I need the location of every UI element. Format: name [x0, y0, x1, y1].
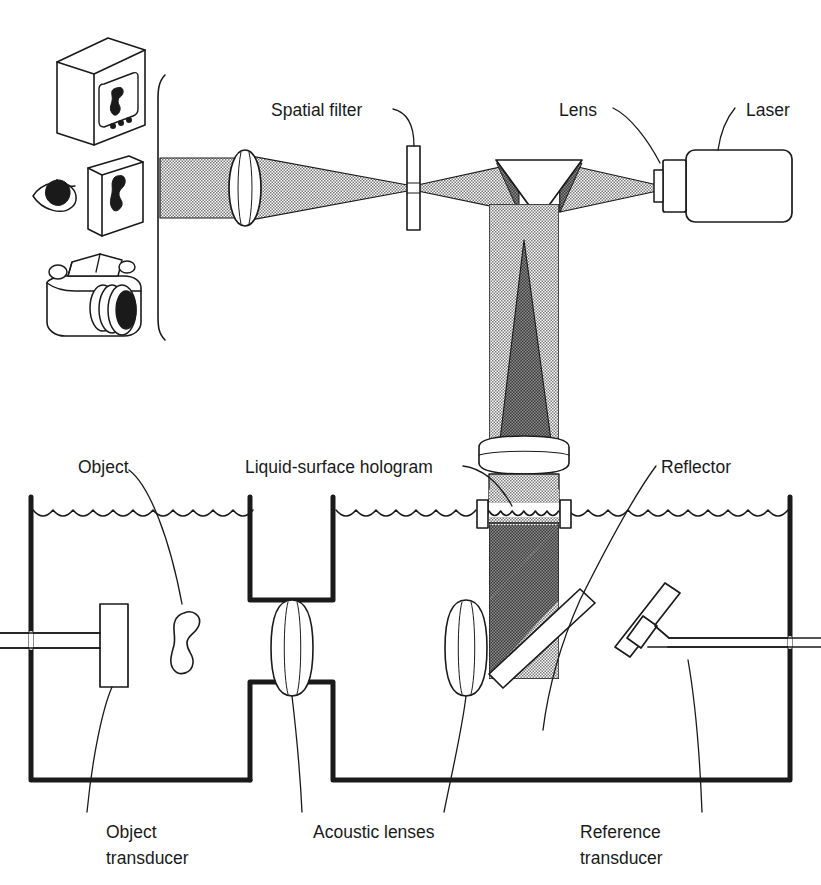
vertical-beam-column-upper: [489, 204, 559, 454]
label-laser: Laser: [746, 100, 790, 120]
label-acoustic-lenses: Acoustic lenses: [313, 822, 435, 842]
tv-monitor: [57, 38, 145, 145]
hologram-clamp-left: [477, 500, 488, 528]
imaging-lens: [229, 150, 261, 226]
label-lens: Lens: [559, 100, 597, 120]
objective-lens: [479, 436, 569, 474]
observer-eye: [33, 180, 76, 211]
label-reference-transducer-line1: Reference: [580, 822, 661, 842]
acoustic-lens-right: [445, 600, 487, 696]
label-spatial-filter: Spatial filter: [271, 100, 363, 120]
viewing-screen: [88, 156, 143, 236]
label-object-transducer-line1: Object: [106, 822, 157, 842]
laser-body: [686, 150, 792, 222]
acoustic-lens-left: [271, 600, 313, 696]
label-object: Object: [78, 457, 129, 477]
label-liquid-surface-hologram: Liquid-surface hologram: [245, 457, 433, 477]
water-surface-left: [33, 510, 253, 516]
laser-collimator: [654, 160, 686, 212]
label-object-transducer-line2: transducer: [106, 848, 189, 868]
hologram-clamp-right: [560, 500, 571, 528]
pinhole-plate: [407, 146, 420, 230]
liquid-surface-hologram-region: [489, 503, 559, 517]
figure-canvas: Spatial filter Lens Laser Liquid-surface…: [0, 0, 821, 885]
object-transducer: [0, 604, 128, 687]
expanded-output-beam: [160, 155, 413, 221]
irregular-object: [171, 612, 200, 674]
label-reference-transducer-line2: transducer: [580, 848, 663, 868]
label-reflector: Reflector: [661, 457, 731, 477]
acoustic-holography-diagram: Spatial filter Lens Laser Liquid-surface…: [0, 0, 821, 885]
camera: [47, 254, 141, 336]
